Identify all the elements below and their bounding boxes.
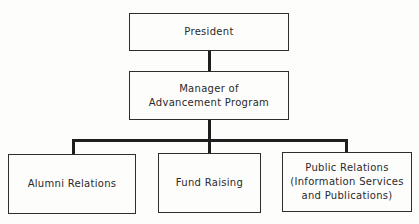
- org-chart: President Manager of Advancement Program…: [0, 0, 419, 224]
- connector-to-alumni: [72, 139, 75, 154]
- node-fund-label: Fund Raising: [176, 176, 243, 190]
- connector-horizontal-bus: [72, 139, 348, 142]
- node-alumni-relations: Alumni Relations: [8, 154, 136, 214]
- node-manager-advancement: Manager of Advancement Program: [129, 71, 289, 120]
- node-president-label: President: [184, 25, 233, 39]
- node-fund-raising: Fund Raising: [158, 153, 261, 213]
- node-manager-label: Manager of Advancement Program: [149, 82, 269, 110]
- connector-manager-branch: [208, 120, 211, 153]
- connector-president-manager: [208, 51, 211, 71]
- node-president: President: [129, 13, 289, 51]
- node-public-relations: Public Relations (Information Services a…: [282, 152, 412, 212]
- node-alumni-label: Alumni Relations: [28, 177, 117, 191]
- node-public-label: Public Relations (Information Services a…: [290, 161, 403, 203]
- connector-to-public-relations: [345, 139, 348, 152]
